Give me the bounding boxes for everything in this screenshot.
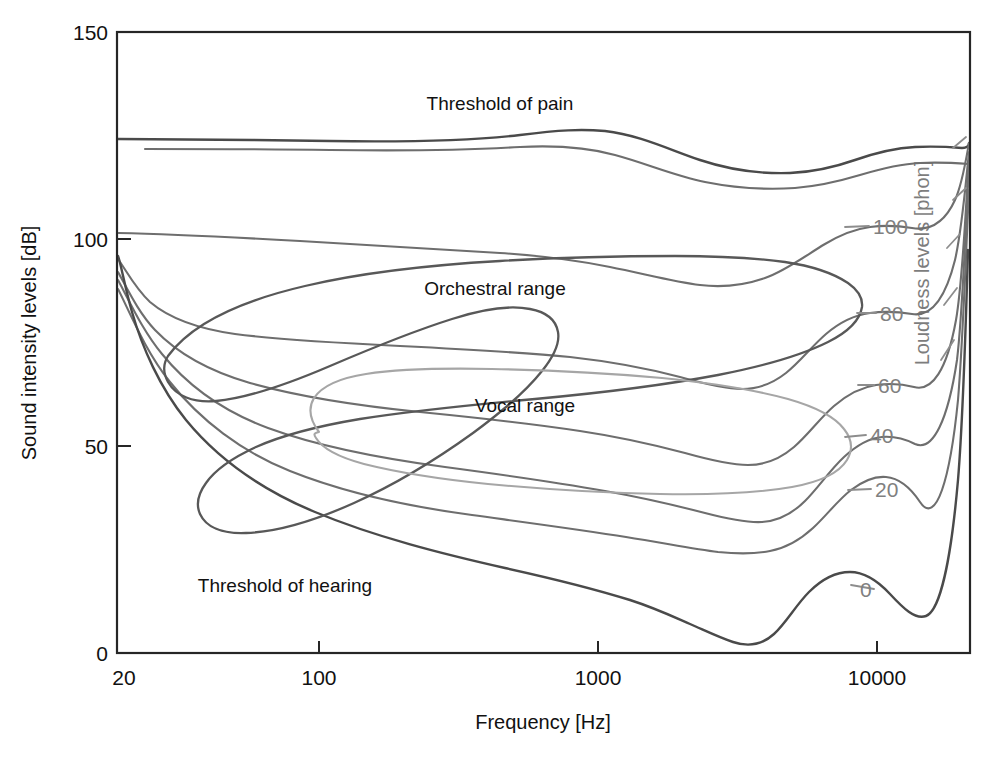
- y-axis-ticks: [117, 32, 131, 653]
- phon-label-0: 0: [860, 578, 872, 601]
- chart-figure: 150 100 50 0 20 100 1000 10000 Frequency…: [0, 0, 993, 763]
- y-tick-label-50: 50: [85, 435, 108, 458]
- phon-label-40: 40: [870, 424, 893, 447]
- annotation-orchestral-range: Orchestral range: [424, 278, 566, 299]
- x-axis-ticks: [319, 641, 877, 653]
- phon-hint-dash-4: [944, 288, 957, 305]
- x-tick-label-20: 20: [112, 666, 135, 689]
- plot-frame: [117, 32, 970, 653]
- phon-axis-title: Loudness levels [phon]: [911, 161, 933, 366]
- phon-label-20: 20: [875, 478, 898, 501]
- phon-hint-dash-1: [953, 137, 966, 148]
- leader-100-phon: [845, 226, 869, 227]
- phon-label-80: 80: [880, 302, 903, 325]
- equal-loudness-contour-chart: 150 100 50 0 20 100 1000 10000 Frequency…: [0, 0, 993, 763]
- annotation-threshold-of-pain: Threshold of pain: [427, 93, 574, 114]
- y-axis-title: Sound intensity levels [dB]: [18, 226, 40, 461]
- contour-80-phon: [118, 152, 969, 389]
- contour-20-phon: [118, 190, 969, 553]
- x-axis-title: Frequency [Hz]: [475, 711, 611, 733]
- x-tick-label-100: 100: [301, 666, 336, 689]
- y-tick-label-150: 150: [73, 21, 108, 44]
- y-tick-label-100: 100: [73, 228, 108, 251]
- annotation-threshold-of-hearing: Threshold of hearing: [198, 575, 372, 596]
- contour-40-phon: [118, 168, 969, 522]
- phon-leaders: [845, 226, 876, 589]
- phon-label-100: 100: [873, 215, 908, 238]
- contour-120-phon: [118, 130, 969, 173]
- annotation-vocal-range: Vocal range: [475, 395, 575, 416]
- phon-label-60: 60: [878, 374, 901, 397]
- x-tick-label-10000: 10000: [848, 666, 906, 689]
- leader-20-phon: [848, 489, 871, 490]
- x-tick-label-1000: 1000: [575, 666, 622, 689]
- y-tick-label-0: 0: [96, 642, 108, 665]
- contour-110-phon: [145, 146, 969, 188]
